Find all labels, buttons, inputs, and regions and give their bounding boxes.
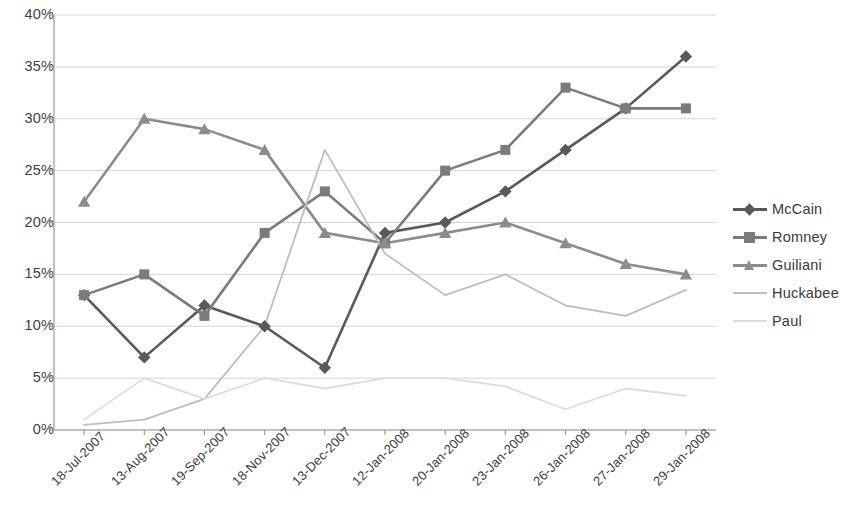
legend-diamond-icon <box>743 203 755 215</box>
legend-swatch-icon <box>733 258 767 272</box>
legend-triangle-icon <box>744 260 754 270</box>
data-point-marker <box>561 83 571 93</box>
legend-square-icon <box>744 232 755 243</box>
x-axis-tick-label: 12-Jan-2008 <box>349 426 412 489</box>
data-point-marker <box>260 228 270 238</box>
series-line-romney <box>84 88 686 316</box>
legend-line <box>733 292 767 294</box>
data-point-marker <box>439 216 451 228</box>
data-point-marker <box>139 269 149 279</box>
x-axis-tick-label: 26-Jan-2008 <box>530 426 593 489</box>
legend-swatch-icon <box>733 230 767 244</box>
legend-label: McCain <box>772 201 822 217</box>
series-line-huckabee <box>84 150 686 425</box>
gridlines <box>54 15 716 430</box>
legend-item-mccain: McCain <box>733 195 843 223</box>
x-axis-tick-label: 27-Jan-2008 <box>590 426 653 489</box>
legend-label: Guiliani <box>772 257 822 273</box>
chart-legend: McCainRomneyGuilianiHuckabeePaul <box>733 195 843 335</box>
legend-item-huckabee: Huckabee <box>733 279 843 307</box>
legend-swatch-icon <box>733 314 767 328</box>
data-point-marker <box>681 103 691 113</box>
x-axis-tick-label: 18-Nov-2007 <box>229 424 294 489</box>
x-axis-tick-label: 13-Dec-2007 <box>289 424 354 489</box>
legend-line <box>733 320 767 322</box>
x-axis-tick-label: 29-Jan-2008 <box>650 426 713 489</box>
legend-item-paul: Paul <box>733 307 843 335</box>
data-point-marker <box>440 166 450 176</box>
x-axis-tick-label: 13-Aug-2007 <box>108 424 173 489</box>
line-chart: 0%5%10%15%20%25%30%35%40% 18-Jul-200713-… <box>0 0 843 510</box>
legend-swatch-icon <box>733 286 767 300</box>
data-point-marker <box>621 103 631 113</box>
x-axis-tick-label: 23-Jan-2008 <box>469 426 532 489</box>
legend-item-guiliani: Guiliani <box>733 251 843 279</box>
data-point-marker <box>500 145 510 155</box>
legend-swatch-icon <box>733 202 767 216</box>
legend-label: Huckabee <box>772 285 839 301</box>
legend-item-romney: Romney <box>733 223 843 251</box>
legend-label: Paul <box>772 313 802 329</box>
axis-lines <box>49 15 716 435</box>
legend-label: Romney <box>772 229 827 245</box>
data-point-marker <box>199 311 209 321</box>
data-point-marker <box>79 290 89 300</box>
x-axis-tick-label: 18-Jul-2007 <box>48 429 108 489</box>
series-line-mccain <box>84 57 686 368</box>
x-axis-tick-label: 19-Sep-2007 <box>168 424 233 489</box>
series-line-paul <box>84 378 686 420</box>
series-line-guiliani <box>84 119 686 275</box>
data-point-marker <box>320 186 330 196</box>
x-axis-tick-label: 20-Jan-2008 <box>409 426 472 489</box>
x-axis-labels: 18-Jul-200713-Aug-200719-Sep-200718-Nov-… <box>0 430 740 510</box>
